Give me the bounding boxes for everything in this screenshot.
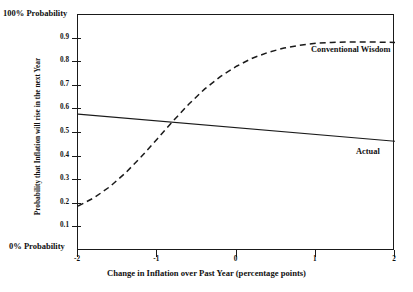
y-tick-mark xyxy=(72,203,81,204)
x-tick-label: -1 xyxy=(144,255,168,263)
y-tick-label: 0.1 xyxy=(39,221,69,229)
x-axis-title: Change in Inflation over Past Year (perc… xyxy=(0,268,413,278)
y-tick-label: 0.8 xyxy=(39,56,69,64)
y-tick-label: 0.5 xyxy=(39,127,69,135)
y-tick-mark xyxy=(72,226,81,227)
y-tick-label: 0.2 xyxy=(39,198,69,206)
y-axis-bottom-label: 0% Probability xyxy=(9,241,65,251)
y-tick-mark xyxy=(72,156,81,157)
y-tick-label: 0.4 xyxy=(39,151,69,159)
y-tick-label: 0.6 xyxy=(39,103,69,111)
y-axis-title: Probability that Inflation will rise in … xyxy=(33,37,42,237)
y-tick-label: 0.7 xyxy=(39,80,69,88)
y-tick-mark xyxy=(72,132,81,133)
y-tick-label: 0.9 xyxy=(39,33,69,41)
y-tick-mark xyxy=(72,108,81,109)
series-conventional-wisdom xyxy=(78,42,395,206)
x-tick-label: 0 xyxy=(224,255,248,263)
x-tick-label: -2 xyxy=(65,255,89,263)
chart-figure: 100% Probability 0% Probability Probabil… xyxy=(0,0,413,292)
y-tick-mark xyxy=(72,61,81,62)
annotation-actual: Actual xyxy=(356,147,380,156)
x-tick-label: 2 xyxy=(382,255,406,263)
x-tick-label: 1 xyxy=(303,255,327,263)
y-tick-mark xyxy=(72,179,81,180)
annotation-conventional-wisdom: Conventional Wisdom xyxy=(311,45,391,54)
y-tick-mark xyxy=(72,85,81,86)
series-actual xyxy=(78,114,395,141)
y-axis-top-label: 100% Probability xyxy=(3,8,67,18)
y-tick-mark xyxy=(72,38,81,39)
y-tick-label: 0.3 xyxy=(39,174,69,182)
